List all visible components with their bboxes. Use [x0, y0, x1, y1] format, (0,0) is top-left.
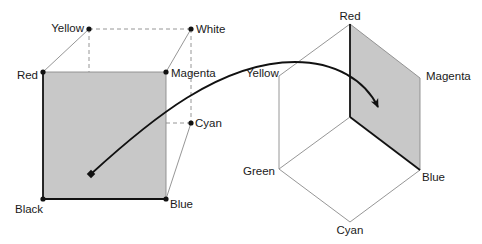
cube-label-blue: Blue: [170, 198, 193, 210]
cube-label-yellow: Yellow: [51, 22, 85, 34]
vertex-yellow: [86, 26, 91, 31]
hex-label-blue: Blue: [422, 171, 445, 183]
vertex-blue: [163, 196, 168, 201]
hexagon-group: Red Yellow Magenta Green Blue Cyan: [243, 10, 471, 236]
vertex-red: [40, 69, 45, 74]
vertex-white: [188, 26, 193, 31]
cube-group: Yellow White Red Magenta Cyan Black Blue: [15, 22, 225, 215]
hexagon-shaded-face: [350, 24, 420, 170]
cube-label-magenta: Magenta: [171, 67, 216, 79]
cube-edge-red-yellow: [43, 29, 89, 72]
hex-label-magenta: Magenta: [426, 70, 471, 82]
hex-edge-green-cyan: [279, 169, 350, 222]
cube-label-red: Red: [17, 69, 38, 81]
hex-edge-red-yellow: [279, 24, 350, 76]
cube-label-cyan: Cyan: [195, 117, 222, 129]
cube-label-white: White: [196, 23, 225, 35]
cube-label-black: Black: [15, 203, 43, 215]
hex-label-red: Red: [339, 10, 360, 22]
cube-edge-blue-cyan: [166, 123, 191, 199]
vertex-magenta: [163, 69, 168, 74]
cube-edge-magenta-white: [166, 29, 191, 72]
hex-label-cyan: Cyan: [337, 224, 364, 236]
vertex-black: [40, 196, 45, 201]
cube-front-face: [43, 72, 166, 199]
color-cube-diagram: Yellow White Red Magenta Cyan Black Blue…: [0, 0, 482, 244]
hex-inner-edge-center-green: [279, 117, 350, 169]
hex-edge-cyan-blue: [350, 170, 420, 222]
vertex-cyan: [188, 120, 193, 125]
hex-label-green: Green: [243, 165, 275, 177]
